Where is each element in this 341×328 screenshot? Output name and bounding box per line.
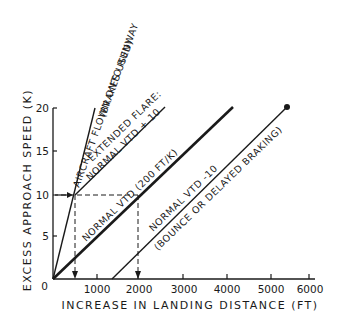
y-axis-title: EXCESS APPROACH SPEED (K) [21, 89, 34, 291]
x-tick-3000: 3000 [171, 283, 198, 295]
label-aircraft-2: (BRAKES USED) [97, 38, 135, 119]
y-axis: 20 15 10 5 0 [36, 102, 57, 292]
x-tick-5000: 5000 [258, 283, 285, 295]
y-tick-10: 10 [36, 189, 49, 201]
x-tick-4000: 4000 [214, 283, 241, 295]
y-tick-15: 15 [36, 145, 49, 157]
x-tick-6000: 6000 [297, 283, 324, 295]
line-annotations: AIRCRAFT FLOWN ONTO RUNWAY (BRAKES USED)… [71, 22, 285, 253]
end-dot-icon [284, 104, 290, 110]
series-lines [53, 104, 290, 279]
chart: 20 15 10 5 0 1000 2000 3000 4000 5000 60… [0, 0, 341, 328]
y-tick-20: 20 [36, 102, 49, 114]
x-axis: 1000 2000 3000 4000 5000 6000 [53, 274, 323, 295]
x-tick-1000: 1000 [84, 283, 111, 295]
arrow-down-icon [72, 271, 78, 279]
arrow-down-icon [135, 271, 141, 279]
y-tick-0: 0 [41, 280, 48, 292]
x-axis-title: INCREASE IN LANDING DISTANCE (FT) [61, 299, 318, 312]
y-tick-5: 5 [42, 230, 49, 242]
label-minus-2: (BOUNCE OR DELAYED BRAKING) [152, 124, 285, 253]
x-tick-2000: 2000 [126, 283, 153, 295]
